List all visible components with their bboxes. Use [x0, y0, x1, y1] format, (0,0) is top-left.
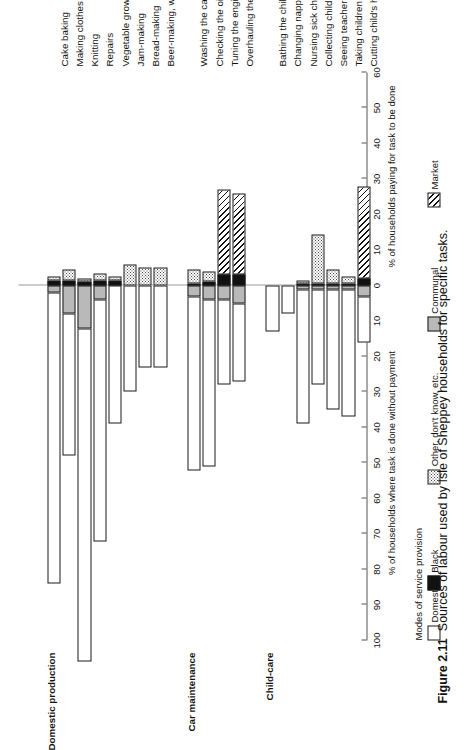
axis-tick-label: 10	[370, 309, 381, 333]
axis-tick-label: 40	[370, 415, 381, 439]
bar-segment-other	[138, 267, 151, 285]
bar-segment-black	[357, 278, 370, 285]
task-label: Knitting	[88, 33, 99, 66]
axis-tick-label: 20	[370, 344, 381, 368]
task-label: Nursing sick children	[307, 0, 318, 66]
task-label: Vegetable growing	[119, 0, 130, 66]
bar-segment-domestic	[357, 296, 370, 342]
group-label-child-care: Child-care	[263, 652, 274, 700]
bar-segment-other	[47, 276, 60, 280]
bar-segment-black	[77, 281, 90, 285]
bar-segment-communal	[62, 285, 75, 313]
bar-segment-domestic	[108, 285, 121, 423]
axis-tick-label: 50	[370, 96, 381, 120]
axis-tick-label: 20	[370, 202, 381, 226]
axis-tick	[361, 568, 366, 569]
positive-axis-title: % of households paying for task to be do…	[385, 61, 396, 291]
figure-caption: Figure 2.11 Sources of labour used by Is…	[436, 0, 450, 703]
bar-segment-black	[108, 280, 121, 285]
task-label: Bread-making	[149, 5, 160, 66]
task-label: Jam-making	[134, 13, 145, 66]
bar-segment-communal	[187, 285, 200, 296]
axis-tick-label: 30	[370, 380, 381, 404]
bar-segment-other	[326, 269, 339, 283]
bar-segment-domestic	[311, 289, 324, 385]
task-label: Repairs	[103, 32, 114, 66]
bar-segment-domestic	[296, 289, 309, 424]
task-label: Taking children to doctor	[352, 0, 363, 66]
bar-segment-black	[47, 280, 60, 285]
bar-segment-domestic	[341, 289, 354, 417]
axis-tick	[361, 497, 366, 498]
axis-tick	[361, 178, 366, 179]
bar-segment-domestic	[153, 285, 166, 367]
task-label: Cake baking	[58, 12, 69, 66]
bar-segment-black	[232, 274, 245, 285]
task-label: Overhauling the brakes	[243, 0, 254, 66]
bar-segment-other	[62, 269, 75, 280]
task-label: Checking the oil	[213, 0, 224, 66]
bar-segment-domestic	[232, 303, 245, 381]
task-label: Seeing teacher	[337, 0, 348, 66]
bar-segment-other	[93, 273, 106, 280]
bar-segment-market	[217, 189, 230, 274]
bar-segment-domestic	[187, 296, 200, 470]
figure-number: Figure 2.11	[436, 638, 450, 703]
bar-segment-other	[296, 280, 309, 284]
figure-caption-text: Sources of labour used by Isle of Sheppe…	[436, 229, 450, 631]
bar-segment-communal	[93, 285, 106, 299]
bar-segment-domestic	[62, 313, 75, 455]
bar-segment-communal	[202, 285, 215, 299]
bar-segment-black	[93, 280, 106, 285]
bar-segment-domestic	[281, 285, 294, 313]
axis-tick-label: 70	[370, 522, 381, 546]
bar-segment-black	[202, 281, 215, 285]
bar-segment-communal	[341, 285, 354, 289]
task-label: Beer-making, wine-making	[164, 0, 175, 66]
axis-tick-label: 30	[370, 167, 381, 191]
axis-tick	[361, 604, 366, 605]
bar-segment-communal	[217, 285, 230, 299]
axis-tick	[361, 462, 366, 463]
task-label: Collecting children from school	[322, 0, 333, 66]
figure-caption-wrapper: Figure 2.11 Sources of labour used by Is…	[428, 0, 450, 703]
bar-segment-market	[232, 193, 245, 275]
bar-segment-black	[217, 274, 230, 285]
bar-segment-communal	[296, 285, 309, 289]
bar-segment-domestic	[123, 285, 136, 392]
axis-tick-label: 60	[370, 486, 381, 510]
axis-tick-label: 80	[370, 557, 381, 581]
bar-segment-communal	[77, 285, 90, 328]
axis-tick	[361, 142, 366, 143]
axis-tick-label: 0	[370, 273, 381, 297]
bar-segment-communal	[311, 285, 324, 289]
bar-segment-communal	[232, 285, 245, 303]
bar-segment-domestic	[138, 285, 151, 367]
bar-segment-black	[62, 280, 75, 285]
bar-segment-other	[153, 267, 166, 285]
bar-segment-domestic	[265, 285, 278, 331]
bar-segment-domestic	[77, 328, 90, 662]
task-label: Tuning the engine	[228, 0, 239, 66]
task-label: Cutting child's hair	[367, 0, 378, 66]
axis-tick-label: 50	[370, 451, 381, 475]
task-label: Bathing the children	[276, 0, 287, 66]
bar-segment-other	[187, 269, 200, 283]
bar-segment-other	[202, 271, 215, 282]
bar-segment-other	[341, 276, 354, 283]
axis-tick	[361, 639, 366, 640]
task-label: Making clothes	[73, 1, 84, 66]
bar-segment-communal	[326, 285, 339, 289]
bar-segment-domestic	[202, 299, 215, 466]
group-label-domestic-production: Domestic production	[45, 652, 56, 750]
axis-tick	[361, 71, 366, 72]
task-label: Washing the car	[197, 0, 208, 66]
axis-tick-label: 100	[370, 628, 381, 652]
negative-axis-title: % of households where task is done witho…	[385, 285, 396, 640]
axis-tick-label: 10	[370, 238, 381, 262]
axis-tick	[361, 426, 366, 427]
bar-segment-domestic	[93, 299, 106, 540]
axis-tick	[361, 533, 366, 534]
axis-tick-label: 90	[370, 593, 381, 617]
